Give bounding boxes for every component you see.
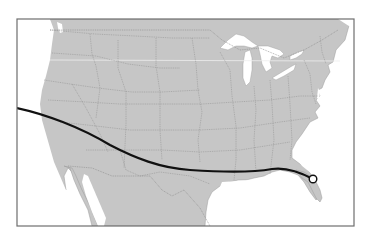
map-svg	[0, 0, 365, 240]
map-container	[0, 0, 365, 240]
route-endpoint-marker	[309, 175, 317, 183]
